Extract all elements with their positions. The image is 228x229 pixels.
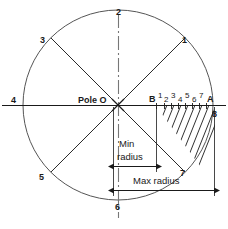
spoke-label-3: 3 — [40, 36, 45, 45]
spoke-label-2: 2 — [116, 8, 121, 17]
spoke-label-5: 5 — [39, 173, 44, 182]
axis-label-B: B — [149, 95, 156, 104]
axis-div-5: 5 — [185, 92, 189, 100]
axis-div-7: 7 — [199, 92, 203, 100]
axis-div-3: 3 — [171, 92, 175, 100]
diagram-canvas: Pole O 1 2 3 4 5 6 7 8 B 1 2 3 4 5 6 7 A… — [0, 0, 228, 229]
spoke-line-5 — [51, 105, 118, 172]
spoke-label-1: 1 — [182, 36, 187, 45]
min-radius-label-line2: radius — [117, 152, 143, 162]
spoke-label-8: 8 — [212, 110, 217, 119]
diagram-svg — [0, 0, 228, 229]
axis-div-2: 2 — [164, 96, 168, 104]
spoke-label-7: 7 — [180, 169, 185, 178]
axis-div-6: 6 — [192, 96, 196, 104]
axis-div-1: 1 — [158, 92, 162, 100]
axis-label-A: A — [207, 95, 214, 104]
axis-div-4: 4 — [178, 96, 182, 104]
max-radius-label: Max radius — [133, 176, 179, 186]
spoke-label-6: 6 — [115, 203, 120, 212]
min-radius-label-line1: Min — [119, 139, 134, 149]
spoke-label-4: 4 — [11, 96, 16, 105]
pole-label: Pole O — [78, 96, 107, 105]
